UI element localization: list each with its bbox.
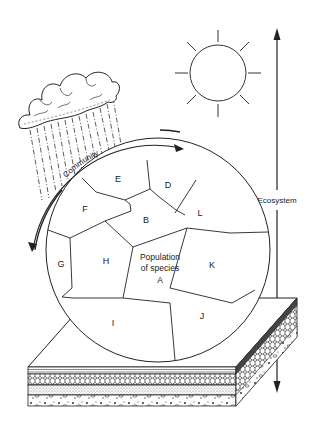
sun-icon bbox=[175, 30, 261, 117]
region-label-k: K bbox=[209, 260, 215, 270]
region-label-h: H bbox=[103, 256, 110, 266]
region-label-e: E bbox=[115, 174, 121, 184]
population-line1: Population bbox=[140, 252, 180, 262]
population-line2: of species bbox=[141, 263, 179, 273]
region-label-l: L bbox=[197, 208, 202, 218]
arrow-down-icon bbox=[274, 381, 281, 393]
region-label-f: F bbox=[82, 204, 88, 214]
region-label-b: B bbox=[143, 215, 149, 225]
population-letter: A bbox=[157, 275, 163, 285]
ecosystem-label: Ecosystem bbox=[257, 196, 296, 205]
arrow-up-icon bbox=[274, 28, 281, 40]
region-label-g: G bbox=[57, 259, 64, 269]
ecosystem-diagram: Ecosystem bbox=[0, 0, 320, 431]
cloud-icon bbox=[19, 72, 120, 128]
region-label-i: I bbox=[112, 318, 115, 328]
region-label-d: D bbox=[165, 180, 172, 190]
region-label-j: J bbox=[200, 311, 205, 321]
